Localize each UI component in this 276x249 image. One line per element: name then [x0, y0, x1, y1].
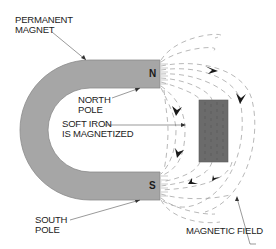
- label-north-pole-line2: POLE: [78, 105, 111, 115]
- arrow-icon: [188, 178, 198, 184]
- label-soft-iron: SOFT IRON IS MAGNETIZED: [62, 119, 133, 139]
- label-magnetic-field: MAGNETIC FIELD: [186, 226, 263, 236]
- arrow-icon: [172, 106, 182, 116]
- arrow-icon: [175, 148, 184, 158]
- label-north-pole: NORTH POLE: [78, 95, 111, 115]
- south-pole-mark: S: [149, 180, 156, 191]
- label-south-pole: SOUTH POLE: [35, 215, 67, 235]
- label-permanent-magnet-line2: MAGNET: [15, 25, 73, 35]
- label-south-pole-line2: POLE: [35, 225, 67, 235]
- arrow-icon: [236, 93, 246, 104]
- soft-iron-bar: [199, 100, 228, 162]
- north-pole-mark: N: [149, 68, 156, 79]
- label-permanent-magnet: PERMANENT MAGNET: [15, 15, 73, 35]
- magnet-diagram: N S PERMANENT MAGNET NORTH POLE SOFT IRO…: [0, 0, 276, 249]
- diagram-graphics: [0, 0, 276, 249]
- pole-flux-ticks: [161, 64, 168, 196]
- label-soft-iron-line2: IS MAGNETIZED: [62, 129, 133, 139]
